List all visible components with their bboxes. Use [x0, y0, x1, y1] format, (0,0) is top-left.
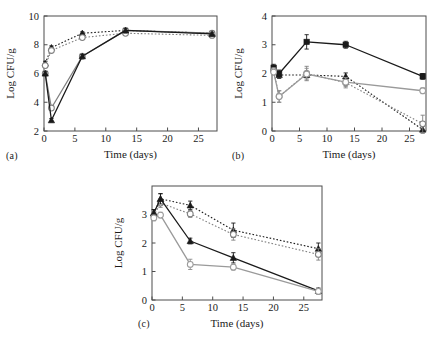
series-solid-filled-triangle — [42, 27, 215, 123]
marker-filled-square — [304, 39, 309, 44]
marker-open-circle — [49, 48, 55, 54]
y-tick-label: 2 — [34, 126, 39, 137]
panel-tag-c: (c) — [138, 318, 150, 329]
figure-root: 0510152025246810Time (days)Log CFU/g (a)… — [0, 0, 440, 339]
series-line — [45, 30, 212, 108]
y-tick-label: 2 — [142, 238, 147, 249]
y-tick-label: 3 — [142, 209, 147, 220]
x-tick-label: 0 — [41, 133, 46, 144]
x-tick-label: 25 — [193, 133, 204, 144]
chart-panel-a: 0510152025246810Time (days)Log CFU/g (a) — [0, 0, 230, 170]
series-dotted-filled-triangle — [151, 194, 322, 255]
y-axis-title: Log CFU/g — [112, 217, 124, 268]
series-dotted-open-circle — [42, 30, 215, 68]
marker-open-circle — [230, 232, 236, 238]
x-tick-label: 0 — [149, 302, 154, 313]
y-tick-label: 3 — [262, 39, 267, 50]
marker-open-circle — [315, 289, 321, 295]
panel-tag-b: (b) — [232, 150, 244, 161]
x-tick-label: 20 — [162, 133, 173, 144]
plot-a: 0510152025246810Time (days)Log CFU/g — [0, 0, 230, 170]
y-tick-label: 4 — [262, 11, 268, 22]
y-tick-label: 10 — [29, 11, 40, 22]
marker-open-circle — [304, 71, 310, 77]
marker-open-circle — [276, 94, 282, 100]
y-tick-label: 0 — [142, 295, 147, 306]
marker-filled-triangle — [157, 196, 163, 202]
series-line — [45, 33, 212, 65]
x-tick-label: 25 — [404, 133, 415, 144]
x-tick-label: 5 — [180, 302, 185, 313]
y-tick-label: 0 — [262, 126, 267, 137]
y-tick-label: 2 — [262, 68, 267, 79]
x-tick-label: 15 — [349, 133, 360, 144]
marker-open-circle — [42, 63, 48, 69]
y-tick-label: 6 — [34, 68, 39, 79]
marker-open-circle — [158, 212, 164, 218]
marker-open-circle — [187, 261, 193, 267]
series-line — [154, 215, 319, 291]
series-solid-filled-triangle — [151, 194, 322, 294]
x-tick-label: 5 — [72, 133, 77, 144]
x-axis-title: Time (days) — [104, 148, 157, 161]
chart-panel-c: 05101520250123Time (days)Log CFU/g (c) — [100, 170, 350, 339]
x-axis-title: Time (days) — [322, 148, 375, 161]
marker-filled-square — [420, 74, 425, 79]
y-axis-title: Log CFU/g — [232, 48, 244, 99]
chart-panel-b: 051015202501234Time (days)Log CFU/g (b) — [230, 0, 440, 170]
series-solid-open-circle — [271, 68, 426, 102]
marker-open-circle — [79, 35, 85, 41]
plot-b: 051015202501234Time (days)Log CFU/g — [230, 0, 440, 170]
marker-open-circle — [315, 252, 321, 258]
x-tick-label: 20 — [268, 302, 279, 313]
marker-open-circle — [343, 79, 349, 85]
x-tick-label: 20 — [377, 133, 388, 144]
x-tick-label: 25 — [299, 302, 310, 313]
series-dotted-open-circle — [271, 66, 426, 132]
series-line — [45, 30, 212, 63]
marker-open-circle — [271, 69, 277, 75]
x-tick-label: 10 — [207, 302, 218, 313]
marker-open-circle — [230, 264, 236, 270]
series-dotted-filled-triangle — [270, 66, 425, 133]
x-tick-label: 5 — [297, 133, 302, 144]
plot-c: 05101520250123Time (days)Log CFU/g — [100, 170, 350, 339]
marker-open-circle — [420, 121, 426, 127]
marker-filled-triangle — [48, 117, 54, 123]
y-tick-label: 4 — [34, 97, 40, 108]
series-dotted-open-circle — [151, 199, 321, 260]
x-axis-title: Time (days) — [210, 317, 263, 330]
marker-open-circle — [151, 215, 157, 221]
y-tick-label: 1 — [262, 97, 267, 108]
y-tick-label: 8 — [34, 39, 39, 50]
x-tick-label: 15 — [131, 133, 142, 144]
series-line — [154, 203, 319, 254]
y-tick-label: 1 — [142, 266, 147, 277]
series-solid-filled-square — [271, 35, 425, 80]
marker-filled-triangle — [187, 202, 193, 208]
x-tick-label: 10 — [101, 133, 112, 144]
x-tick-label: 10 — [322, 133, 333, 144]
marker-open-circle — [187, 211, 193, 217]
marker-open-circle — [420, 88, 426, 94]
panel-tag-a: (a) — [6, 150, 18, 161]
plot-frame — [272, 16, 426, 131]
x-tick-label: 0 — [269, 133, 274, 144]
x-tick-label: 15 — [238, 302, 249, 313]
y-axis-title: Log CFU/g — [4, 48, 16, 99]
marker-filled-square — [343, 42, 348, 47]
